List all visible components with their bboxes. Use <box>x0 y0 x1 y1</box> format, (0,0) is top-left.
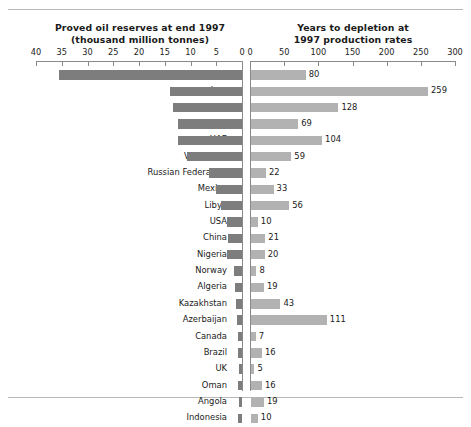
top-divider-rule <box>8 9 463 10</box>
depletion-bar <box>251 332 256 341</box>
reserves-bar <box>236 299 242 308</box>
left-axis-tickmark-15 <box>165 61 166 66</box>
left-chart-title: Proved oil reserves at end 1997 (thousan… <box>36 22 244 45</box>
right-axis-tick-300: 300 <box>447 47 463 57</box>
reserves-bar <box>238 332 242 341</box>
chart-row: Angola19 <box>0 394 471 410</box>
chart-row: Oman16 <box>0 378 471 394</box>
right-axis-tickmark-50 <box>284 61 285 66</box>
right-axis-tickmark-200 <box>387 61 388 66</box>
reserves-bar <box>238 348 242 357</box>
category-label-norway: Norway <box>195 265 227 275</box>
depletion-value-label: 43 <box>283 298 294 308</box>
depletion-bar <box>251 283 264 292</box>
right-axis-tickmark-100 <box>318 61 319 66</box>
depletion-value-label: 128 <box>341 102 357 112</box>
reserves-bar <box>209 168 242 177</box>
reserves-bar <box>187 152 242 161</box>
left-axis-tickmark-25 <box>113 61 114 66</box>
category-label-canada: Canada <box>195 331 227 341</box>
chart-row: Saudi Arabia80 <box>0 67 471 83</box>
depletion-value-label: 10 <box>261 412 272 422</box>
depletion-bar <box>251 299 280 308</box>
depletion-value-label: 21 <box>268 232 279 242</box>
depletion-bar <box>251 250 265 259</box>
chart-rows: Saudi Arabia80Iraq259Kuwait128Iran69UAE1… <box>0 67 471 427</box>
depletion-value-label: 259 <box>431 85 447 95</box>
left-chart-title-line1: Proved oil reserves at end 1997 <box>36 22 244 34</box>
depletion-bar <box>251 103 338 112</box>
reserves-bar <box>178 119 242 128</box>
depletion-bar <box>251 119 298 128</box>
category-label-brazil: Brazil <box>204 347 227 357</box>
depletion-value-label: 111 <box>330 314 346 324</box>
left-axis-tickmark-5 <box>216 61 217 66</box>
reserves-bar <box>173 103 242 112</box>
reserves-bar <box>178 136 242 145</box>
category-label-uk: UK <box>215 363 227 373</box>
depletion-value-label: 56 <box>292 200 303 210</box>
category-label-algeria: Algeria <box>198 281 227 291</box>
depletion-bar <box>251 364 254 373</box>
category-label-oman: Oman <box>202 380 227 390</box>
chart-row: Mexico33 <box>0 181 471 197</box>
right-axis-tickmark-150 <box>353 61 354 66</box>
chart-row: Iraq259 <box>0 83 471 99</box>
depletion-bar <box>251 168 266 177</box>
reserves-bar <box>228 234 242 243</box>
reserves-bar <box>238 381 242 390</box>
depletion-bar <box>251 266 256 275</box>
left-chart-title-line2: (thousand million tonnes) <box>36 34 244 46</box>
depletion-bar <box>251 381 262 390</box>
depletion-value-label: 19 <box>267 281 278 291</box>
depletion-bar <box>251 185 274 194</box>
right-axis-tick-200: 200 <box>379 47 395 57</box>
depletion-bar <box>251 201 289 210</box>
right-axis-tickmark-300 <box>455 61 456 66</box>
depletion-value-label: 80 <box>309 69 320 79</box>
chart-row: China21 <box>0 230 471 246</box>
chart-row: Iran69 <box>0 116 471 132</box>
depletion-value-label: 16 <box>265 347 276 357</box>
chart-row: Russian Federation22 <box>0 165 471 181</box>
chart-row: Indonesia10 <box>0 410 471 426</box>
category-label-indonesia: Indonesia <box>186 412 227 422</box>
reserves-bar <box>170 87 242 96</box>
category-label-angola: Angola <box>198 396 227 406</box>
depletion-bar <box>251 414 258 423</box>
right-chart-title-line2: 1997 production rates <box>250 34 456 46</box>
depletion-bar <box>251 348 262 357</box>
right-axis-tick-150: 150 <box>345 47 361 57</box>
depletion-value-label: 10 <box>261 216 272 226</box>
chart-row: Kazakhstan43 <box>0 296 471 312</box>
right-axis-tick-50: 50 <box>279 47 289 57</box>
depletion-value-label: 8 <box>259 265 264 275</box>
category-label-nigeria: Nigeria <box>197 249 227 259</box>
chart-row: UK5 <box>0 361 471 377</box>
chart-row: Libya56 <box>0 198 471 214</box>
depletion-value-label: 19 <box>267 396 278 406</box>
depletion-bar <box>251 397 264 406</box>
depletion-value-label: 104 <box>325 134 341 144</box>
reserves-bar <box>221 201 242 210</box>
left-axis-tickmark-30 <box>88 61 89 66</box>
category-label-usa: USA <box>210 216 227 226</box>
depletion-bar <box>251 217 258 226</box>
reserves-bar <box>234 266 242 275</box>
depletion-value-label: 33 <box>277 183 288 193</box>
depletion-bar <box>251 234 265 243</box>
chart-row: UAE104 <box>0 132 471 148</box>
right-axis-tick-100: 100 <box>311 47 327 57</box>
reserves-bar <box>239 397 242 406</box>
depletion-value-label: 7 <box>259 331 264 341</box>
reserves-bar <box>235 283 242 292</box>
reserves-bar <box>59 70 242 79</box>
chart-row: Norway8 <box>0 263 471 279</box>
right-axis-tick-0: 0 <box>247 47 252 57</box>
category-label-azerbaijan: Azerbaijan <box>183 314 227 324</box>
reserves-bar <box>216 185 242 194</box>
chart-row: Venezuela59 <box>0 149 471 165</box>
chart-row: USA10 <box>0 214 471 230</box>
depletion-value-label: 59 <box>294 151 305 161</box>
depletion-bar <box>251 136 322 145</box>
